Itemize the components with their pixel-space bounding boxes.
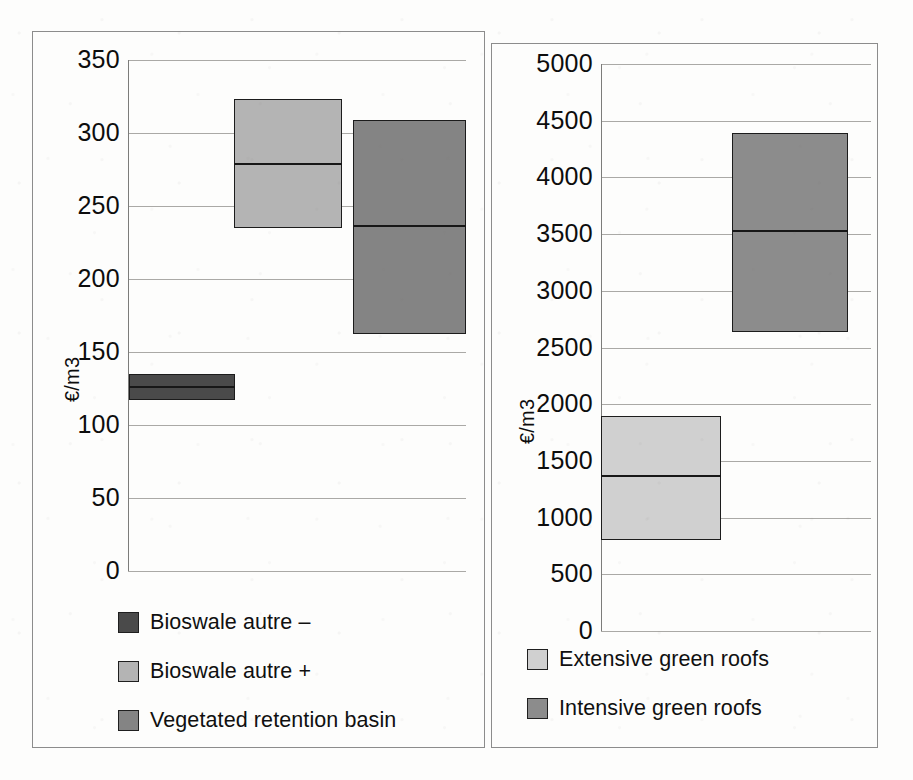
y-tick-label: 500 [525,561,593,586]
gridline [128,425,466,426]
y-tick-label: 3000 [525,278,593,303]
median-line [601,475,721,477]
right-chart-panel: €/m3 50004500400035003000250020001500100… [491,43,878,748]
y-tick-label: 2500 [525,335,593,360]
gridline [601,404,871,405]
y-tick-label: 1500 [525,448,593,473]
y-tick-label: 300 [70,120,120,145]
y-tick-label: 250 [70,193,120,218]
legend-swatch-icon [118,612,139,633]
y-tick-label: 3500 [525,221,593,246]
legend-item-label: Extensive green roofs [559,647,769,672]
legend-item[interactable]: Bioswale autre + [118,659,396,684]
gridline [601,574,871,575]
legend-item[interactable]: Bioswale autre – [118,610,396,635]
legend-item[interactable]: Vegetated retention basin [118,708,396,733]
gridline [601,121,871,122]
legend-item-label: Vegetated retention basin [150,708,396,733]
gridline [601,64,871,65]
gridline [128,352,466,353]
y-axis-line [128,60,129,571]
y-tick-label: 100 [70,412,120,437]
legend-item-label: Bioswale autre – [150,610,311,635]
gridline [128,498,466,499]
range-bar [601,416,721,541]
left-legend: Bioswale autre –Bioswale autre +Vegetate… [118,610,396,757]
legend-swatch-icon [118,661,139,682]
gridline [128,60,466,61]
median-line [353,225,466,227]
median-line [234,163,342,165]
gridline [601,631,871,632]
right-legend: Extensive green roofsIntensive green roo… [527,647,769,745]
y-tick-label: 4500 [525,108,593,133]
y-tick-label: 150 [70,339,120,364]
y-tick-label: 0 [70,558,120,583]
y-tick-label: 1000 [525,505,593,530]
legend-item[interactable]: Intensive green roofs [527,696,769,721]
y-tick-label: 5000 [525,51,593,76]
legend-item[interactable]: Extensive green roofs [527,647,769,672]
median-line [732,230,848,232]
y-axis-line [601,64,602,631]
median-line [129,386,235,388]
y-tick-label: 2000 [525,391,593,416]
legend-swatch-icon [527,698,548,719]
y-tick-label: 350 [70,47,120,72]
gridline [128,571,466,572]
range-bar [732,133,848,331]
y-tick-label: 0 [525,618,593,643]
left-chart-panel: €/m3 350300250200150100500 Bioswale autr… [32,31,485,748]
y-tick-label: 4000 [525,164,593,189]
y-tick-label: 200 [70,266,120,291]
legend-item-label: Bioswale autre + [150,659,311,684]
gridline [601,348,871,349]
y-tick-label: 50 [70,485,120,510]
legend-item-label: Intensive green roofs [559,696,762,721]
legend-swatch-icon [118,710,139,731]
legend-swatch-icon [527,649,548,670]
